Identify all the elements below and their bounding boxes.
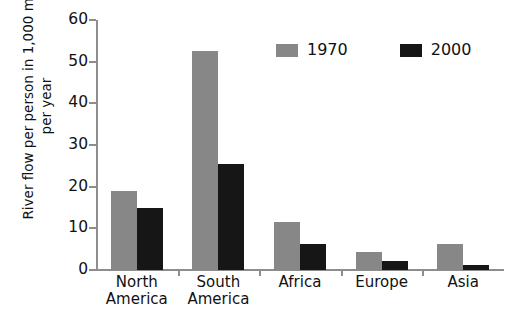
bar-2000-north-america <box>137 208 163 271</box>
x-label-line1: Europe <box>341 274 423 291</box>
y-tick-40 <box>89 102 96 104</box>
bar-2000-europe <box>382 261 408 270</box>
bar-group <box>111 20 163 270</box>
y-tick-10 <box>89 227 96 229</box>
y-tick-20 <box>89 186 96 188</box>
y-axis-line <box>96 20 98 271</box>
bar-1970-asia <box>437 244 463 270</box>
bar-2000-africa <box>300 244 326 270</box>
x-label-line2: America <box>178 291 260 308</box>
plot-area: 0102030405060 <box>96 20 504 270</box>
x-label-line2: America <box>96 291 178 308</box>
bar-1970-south-america <box>192 51 218 270</box>
bar-1970-europe <box>356 252 382 270</box>
x-label-line1: Asia <box>422 274 504 291</box>
y-tick-label-10: 10 <box>38 220 88 236</box>
x-axis-label-europe: Europe <box>341 274 423 291</box>
y-tick-label-0: 0 <box>38 262 88 278</box>
x-label-line1: North <box>96 274 178 291</box>
bar-group <box>356 20 408 270</box>
y-tick-label-40: 40 <box>38 95 88 111</box>
bar-group <box>192 20 244 270</box>
x-label-line1: South <box>178 274 260 291</box>
bar-group <box>274 20 326 270</box>
x-axis-label-africa: Africa <box>259 274 341 291</box>
x-label-line1: Africa <box>259 274 341 291</box>
y-axis-title-line1: River flow per person in 1,000 m <box>20 0 36 220</box>
bar-2000-south-america <box>218 164 244 270</box>
y-axis-title: River flow per person in 1,000 m3 per ye… <box>16 0 56 234</box>
y-tick-label-30: 30 <box>38 137 88 153</box>
y-tick-label-20: 20 <box>38 179 88 195</box>
bar-group <box>437 20 489 270</box>
cutoff-title <box>150 0 410 6</box>
x-axis-label-asia: Asia <box>422 274 504 291</box>
bar-chart: River flow per person in 1,000 m3 per ye… <box>0 0 514 322</box>
x-axis-label-north-america: NorthAmerica <box>96 274 178 308</box>
y-tick-30 <box>89 144 96 146</box>
y-tick-0 <box>89 269 96 271</box>
y-tick-60 <box>89 19 96 21</box>
y-tick-50 <box>89 61 96 63</box>
x-axis-label-south-america: SouthAmerica <box>178 274 260 308</box>
y-tick-label-60: 60 <box>38 12 88 28</box>
bar-1970-north-america <box>111 191 137 270</box>
bar-1970-africa <box>274 222 300 270</box>
bar-2000-asia <box>463 265 489 270</box>
y-tick-label-50: 50 <box>38 54 88 70</box>
